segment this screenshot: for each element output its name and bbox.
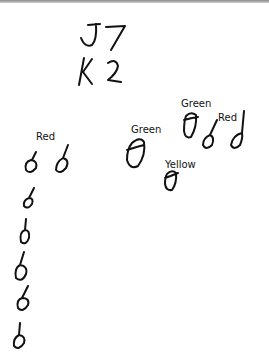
heading-j7-strokes	[81, 24, 125, 50]
label-yellow: Yellow	[165, 160, 196, 170]
label-right-red: Red	[218, 113, 237, 123]
handwritten-sketch	[0, 0, 269, 362]
label-mid-green: Green	[131, 125, 161, 135]
label-left-red: Red	[36, 132, 55, 142]
left-column-glyphs	[14, 188, 34, 348]
label-top-green: Green	[181, 99, 211, 109]
left-red-glyphs	[26, 145, 68, 172]
yellow-glyph	[165, 171, 178, 190]
mid-green-glyph	[127, 139, 144, 167]
heading-k2-strokes	[79, 58, 121, 85]
top-green-glyph	[184, 113, 198, 137]
